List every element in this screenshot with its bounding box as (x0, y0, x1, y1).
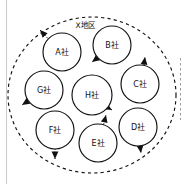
node-label-h: H社 (85, 90, 99, 100)
node-a[interactable]: A社 (43, 33, 81, 71)
node-label-f: F社 (49, 125, 62, 135)
node-label-e: E社 (91, 138, 104, 148)
node-b[interactable]: B社 (93, 26, 131, 64)
node-layer: A社B社C社D社E社F社G社H社 (25, 26, 159, 162)
node-label-a: A社 (55, 47, 68, 57)
node-label-g: G社 (37, 85, 51, 95)
node-f[interactable]: F社 (36, 111, 74, 149)
node-h[interactable]: H社 (72, 75, 112, 115)
node-label-b: B社 (105, 40, 119, 50)
node-g[interactable]: G社 (25, 71, 63, 109)
diagram-canvas: X地区 A社B社C社D社E社F社G社H社 (0, 0, 184, 184)
arrow-head (141, 57, 148, 65)
node-e[interactable]: E社 (79, 124, 117, 162)
region-label: X地区 (75, 20, 95, 30)
arrow-head (52, 152, 59, 160)
node-d[interactable]: D社 (119, 108, 157, 146)
node-label-c: C社 (133, 79, 147, 89)
region-diagram: X地区 A社B社C社D社E社F社G社H社 (0, 0, 184, 184)
node-label-d: D社 (131, 122, 145, 132)
arrow-head (40, 30, 48, 38)
arrow-head (101, 115, 108, 123)
node-c[interactable]: C社 (121, 65, 159, 103)
